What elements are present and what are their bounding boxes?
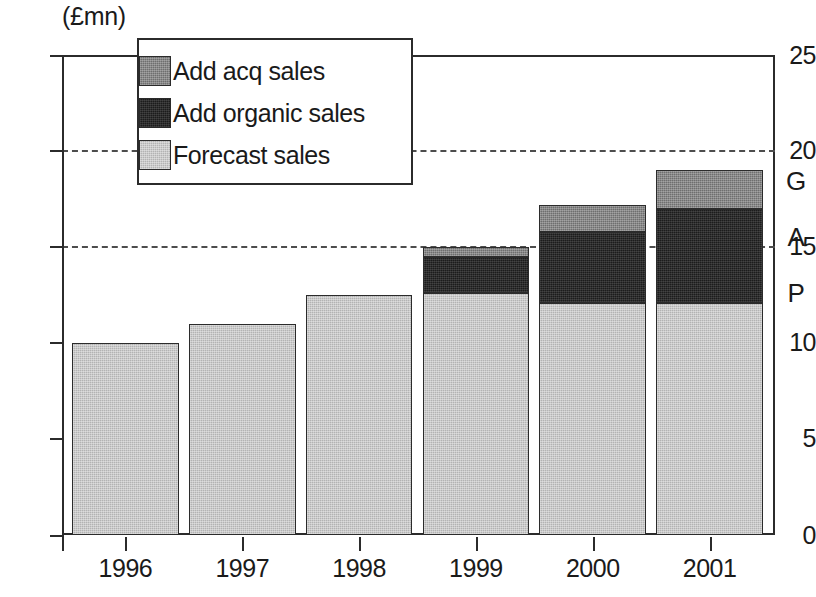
x-tick-origin <box>62 537 64 551</box>
y-tick-25 <box>50 55 64 57</box>
chart-container: (£mn) 25 20 15 10 5 0 199619971998199920… <box>0 0 816 597</box>
y-axis-label-0: 0 <box>770 521 816 550</box>
x-tick-2001 <box>710 537 712 551</box>
gap-letter-p: P <box>787 280 804 306</box>
legend-label-add-acq-sales: Add acq sales <box>173 57 325 86</box>
bar-1999[interactable] <box>423 247 530 535</box>
bar-segment-forecast-1997[interactable] <box>189 324 296 535</box>
x-tick-1997 <box>242 537 244 551</box>
legend-swatch-forecast-icon <box>139 140 171 170</box>
bar-1996[interactable] <box>72 343 179 535</box>
x-axis-label-2000: 2000 <box>566 554 620 583</box>
bar-segment-organic-2000[interactable] <box>539 232 646 303</box>
bar-segment-forecast-1999[interactable] <box>423 293 530 535</box>
y-tick-5 <box>50 438 64 440</box>
legend-label-add-organic-sales: Add organic sales <box>173 99 365 128</box>
bar-segment-organic-2001[interactable] <box>656 209 763 303</box>
x-tick-1999 <box>476 537 478 551</box>
x-axis-label-1998: 1998 <box>332 554 386 583</box>
bar-segment-forecast-2000[interactable] <box>539 303 646 535</box>
bar-1997[interactable] <box>189 324 296 535</box>
y-tick-20 <box>50 150 64 152</box>
gap-letter-a: A <box>787 224 804 250</box>
y-tick-10 <box>50 342 64 344</box>
y-tick-15 <box>50 246 64 248</box>
bar-2001[interactable] <box>656 170 763 535</box>
x-axis-label-1997: 1997 <box>215 554 269 583</box>
bar-segment-forecast-1998[interactable] <box>306 295 413 535</box>
x-axis-label-2001: 2001 <box>683 554 737 583</box>
legend-item-add-acq-sales: Add acq sales <box>139 50 411 92</box>
bar-segment-forecast-2001[interactable] <box>656 303 763 535</box>
legend-item-add-organic-sales: Add organic sales <box>139 92 411 134</box>
legend-swatch-acq-icon <box>139 56 171 86</box>
bar-segment-acq-2000[interactable] <box>539 205 646 232</box>
x-tick-2000 <box>593 537 595 551</box>
y-axis-label-20: 20 <box>770 136 816 165</box>
legend-item-forecast-sales: Forecast sales <box>139 134 411 176</box>
gap-annotation: G A P <box>786 168 806 306</box>
y-axis-unit-label: (£mn) <box>62 2 126 31</box>
y-axis-label-10: 10 <box>770 328 816 357</box>
legend-label-forecast-sales: Forecast sales <box>173 141 330 170</box>
x-axis-label-1999: 1999 <box>449 554 503 583</box>
bar-segment-acq-2001[interactable] <box>656 170 763 208</box>
gap-letter-g: G <box>786 168 806 194</box>
y-axis-label-5: 5 <box>770 424 816 453</box>
bar-segment-acq-1999[interactable] <box>423 247 530 257</box>
y-axis-label-25: 25 <box>770 41 816 70</box>
bar-segment-organic-1999[interactable] <box>423 257 530 293</box>
x-axis-label-1996: 1996 <box>99 554 153 583</box>
bar-2000[interactable] <box>539 205 646 535</box>
bar-1998[interactable] <box>306 295 413 535</box>
bar-segment-forecast-1996[interactable] <box>72 343 179 535</box>
legend-swatch-organic-icon <box>139 98 171 128</box>
x-tick-1998 <box>359 537 361 551</box>
legend: Add acq sales Add organic sales Forecast… <box>137 38 413 185</box>
x-tick-1996 <box>125 537 127 551</box>
